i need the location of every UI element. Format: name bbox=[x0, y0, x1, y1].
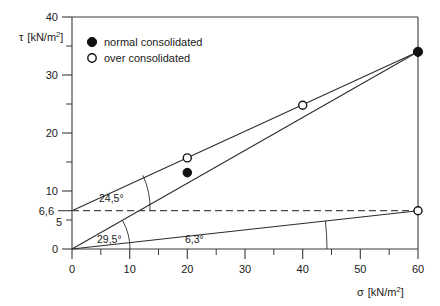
y-axis-unit-close: ] bbox=[60, 31, 63, 43]
x-axis-symbol: σ bbox=[357, 286, 364, 298]
x-axis-unit: [kN/m bbox=[368, 286, 397, 298]
data-point-over-consolidated-40 bbox=[299, 101, 307, 109]
x-tick-label-30: 30 bbox=[239, 263, 251, 275]
x-tick-label-10: 10 bbox=[124, 263, 136, 275]
y-axis-symbol: τ bbox=[19, 31, 24, 43]
y-tick-label-20: 20 bbox=[46, 127, 58, 139]
x-tick-label-0: 0 bbox=[69, 263, 75, 275]
y-axis-unit: [kN/m bbox=[27, 31, 56, 43]
y-tick-label-5: 5 bbox=[56, 216, 62, 228]
data-point-over-consolidated-20 bbox=[183, 154, 191, 162]
legend-item-over-consolidated: over consolidated bbox=[88, 52, 190, 64]
data-point-over-consolidated-60 bbox=[414, 207, 422, 215]
legend-label-over-consolidated: over consolidated bbox=[104, 52, 190, 64]
legend-marker-filled-circle-icon bbox=[87, 37, 96, 46]
legend-label-normal-consolidated: normal consolidated bbox=[104, 36, 202, 48]
data-point-normal-consolidated-20 bbox=[183, 168, 192, 177]
x-axis-unit-close: ] bbox=[401, 286, 404, 298]
angle-label-29-5: 29,5° bbox=[97, 233, 122, 245]
chart-container: 0 10 20 30 40 6,6 5 0 bbox=[0, 0, 440, 306]
angle-label-24-5: 24,5° bbox=[99, 192, 124, 204]
y-tick-label-0: 0 bbox=[52, 243, 58, 255]
x-tick-label-50: 50 bbox=[354, 263, 366, 275]
legend-item-normal-consolidated: normal consolidated bbox=[87, 36, 202, 48]
y-tick-label-40: 40 bbox=[46, 11, 58, 23]
angle-label-6-3: 6,3° bbox=[185, 233, 204, 245]
x-tick-label-40: 40 bbox=[297, 263, 309, 275]
y-tick-label-6-6: 6,6 bbox=[39, 205, 54, 217]
x-tick-label-20: 20 bbox=[181, 263, 193, 275]
y-tick-label-10: 10 bbox=[46, 185, 58, 197]
shear-strength-envelope-chart: 0 10 20 30 40 6,6 5 0 bbox=[0, 0, 440, 306]
legend-marker-open-circle-icon bbox=[88, 54, 96, 62]
y-tick-label-30: 30 bbox=[46, 69, 58, 81]
x-tick-label-60: 60 bbox=[412, 263, 424, 275]
data-point-normal-consolidated-60 bbox=[413, 47, 422, 56]
